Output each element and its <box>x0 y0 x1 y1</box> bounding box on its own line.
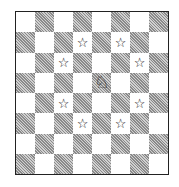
board-square <box>16 12 35 32</box>
board-square <box>149 154 168 174</box>
board-square <box>73 134 92 154</box>
star-icon: ☆ <box>134 97 146 110</box>
board-square <box>54 12 73 32</box>
board-square <box>54 73 73 93</box>
board-square <box>92 113 111 133</box>
board-square <box>111 134 130 154</box>
board-square <box>130 73 149 93</box>
board-square <box>149 53 168 73</box>
board-square <box>92 154 111 174</box>
board-square: ☆ <box>111 32 130 52</box>
board-square <box>16 32 35 52</box>
board-square <box>35 154 54 174</box>
board-square: ☆ <box>73 32 92 52</box>
star-icon: ☆ <box>115 117 127 130</box>
star-icon: ☆ <box>115 36 127 49</box>
board-square <box>149 32 168 52</box>
board-square: ☆ <box>130 53 149 73</box>
board-square <box>16 154 35 174</box>
star-icon: ☆ <box>77 36 89 49</box>
board-square <box>35 32 54 52</box>
board-square <box>54 134 73 154</box>
board-square: ☆ <box>54 53 73 73</box>
board-square <box>149 113 168 133</box>
board-square <box>16 93 35 113</box>
board-square <box>54 32 73 52</box>
board-square <box>149 12 168 32</box>
board-square <box>92 134 111 154</box>
board-square: ♘ <box>92 73 111 93</box>
star-icon: ☆ <box>134 56 146 69</box>
star-icon: ☆ <box>58 97 70 110</box>
board-square <box>111 73 130 93</box>
board-square <box>73 93 92 113</box>
board-square <box>54 113 73 133</box>
board-square <box>35 12 54 32</box>
board-square <box>35 53 54 73</box>
board-square <box>35 134 54 154</box>
board-square <box>35 113 54 133</box>
board-square: ☆ <box>130 93 149 113</box>
board-square <box>16 53 35 73</box>
board-square <box>149 73 168 93</box>
board-square <box>130 154 149 174</box>
board-square <box>130 12 149 32</box>
board-square <box>149 134 168 154</box>
board-square <box>54 154 73 174</box>
star-icon: ☆ <box>77 117 89 130</box>
board-square <box>73 73 92 93</box>
board-square <box>92 53 111 73</box>
star-icon: ☆ <box>58 56 70 69</box>
board-square <box>111 12 130 32</box>
board-square: ☆ <box>111 113 130 133</box>
board-square: ☆ <box>54 93 73 113</box>
board-square <box>35 93 54 113</box>
board-square <box>111 93 130 113</box>
board-square <box>130 32 149 52</box>
board-square <box>130 113 149 133</box>
board-square: ☆ <box>73 113 92 133</box>
white-knight-icon: ♘ <box>94 74 109 91</box>
board-square <box>16 113 35 133</box>
board-square <box>16 73 35 93</box>
board-square <box>130 134 149 154</box>
board-square <box>73 154 92 174</box>
board-square <box>92 12 111 32</box>
board-square <box>16 134 35 154</box>
board-square <box>73 53 92 73</box>
board-square <box>73 12 92 32</box>
board-square <box>92 93 111 113</box>
board-square <box>35 73 54 93</box>
board-square <box>111 154 130 174</box>
board-square <box>149 93 168 113</box>
board-square <box>92 32 111 52</box>
board-square <box>111 53 130 73</box>
chess-board: ☆☆☆☆♘☆☆☆☆ <box>15 11 169 175</box>
